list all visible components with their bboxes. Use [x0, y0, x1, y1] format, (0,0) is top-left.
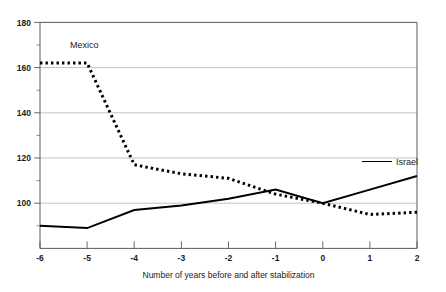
series-annotation-israel: Israel: [396, 157, 418, 167]
x-axis-title: Number of years before and after stabili…: [143, 270, 315, 280]
y-tickmarks: [34, 22, 40, 225]
x-axis-label-zero: 0: [320, 253, 325, 263]
x-axis-label-one: 1: [368, 253, 373, 263]
y-axis-label-120: 120: [17, 153, 31, 163]
line-chart-svg: 180 160 140 120 100 -6 -5 -4 -3 -2 -1 0 …: [0, 0, 446, 292]
x-axis-label-minus2: -2: [225, 253, 233, 263]
y-axis-label-140: 140: [17, 108, 31, 118]
x-axis-label-minus6: -6: [36, 253, 44, 263]
y-axis-label-180: 180: [17, 18, 31, 28]
y-axis-labels: 180 160 140 120 100: [17, 18, 31, 209]
y-axis-label-100: 100: [17, 198, 31, 208]
x-axis-label-minus4: -4: [130, 253, 138, 263]
x-axis-labels: -6 -5 -4 -3 -2 -1 0 1 2: [36, 253, 419, 263]
plot-frame: [40, 22, 417, 248]
x-axis-label-minus3: -3: [178, 253, 186, 263]
y-axis-label-160: 160: [17, 63, 31, 73]
x-axis-label-two: 2: [415, 253, 420, 263]
series-line-israel: [40, 176, 417, 228]
x-axis-label-minus1: -1: [272, 253, 280, 263]
x-tickmarks: [40, 241, 417, 248]
gridlines: [40, 68, 417, 204]
chart-figure: 180 160 140 120 100 -6 -5 -4 -3 -2 -1 0 …: [0, 0, 446, 292]
x-axis-label-minus5: -5: [83, 253, 91, 263]
series-annotation-mexico: Mexico: [70, 40, 99, 50]
